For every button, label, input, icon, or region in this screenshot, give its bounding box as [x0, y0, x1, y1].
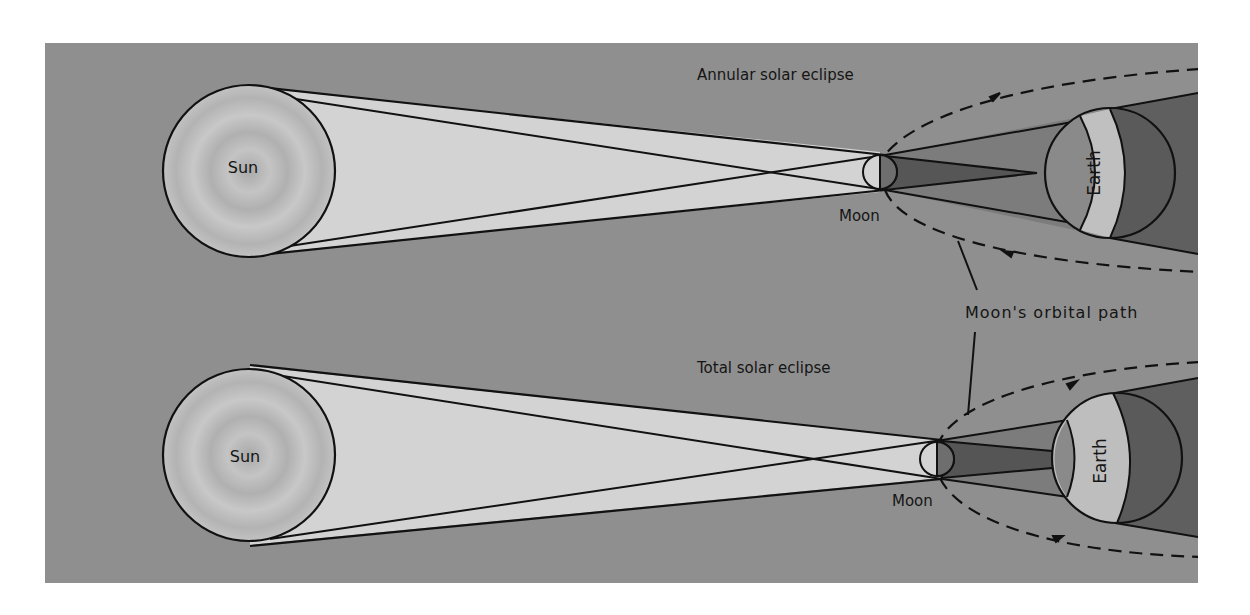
earth: Earth: [1052, 393, 1182, 523]
sun: Sun: [163, 85, 335, 257]
moon: [863, 155, 897, 189]
total-eclipse-title: Total solar eclipse: [696, 359, 830, 377]
annular-eclipse-title: Annular solar eclipse: [697, 66, 854, 84]
sun-label: Sun: [230, 447, 260, 466]
orbital-path-label: Moon's orbital path: [965, 303, 1138, 322]
earth-label: Earth: [1084, 150, 1104, 196]
earth-label: Earth: [1090, 438, 1110, 484]
earth: Earth: [1045, 108, 1175, 238]
sun-label: Sun: [228, 158, 258, 177]
sun: Sun: [163, 369, 335, 541]
moon-label: Moon: [892, 492, 933, 510]
eclipse-diagram: Earth Sun Annular solar eclipse Moon: [0, 0, 1250, 615]
moon: [920, 442, 954, 476]
moon-label: Moon: [839, 207, 880, 225]
